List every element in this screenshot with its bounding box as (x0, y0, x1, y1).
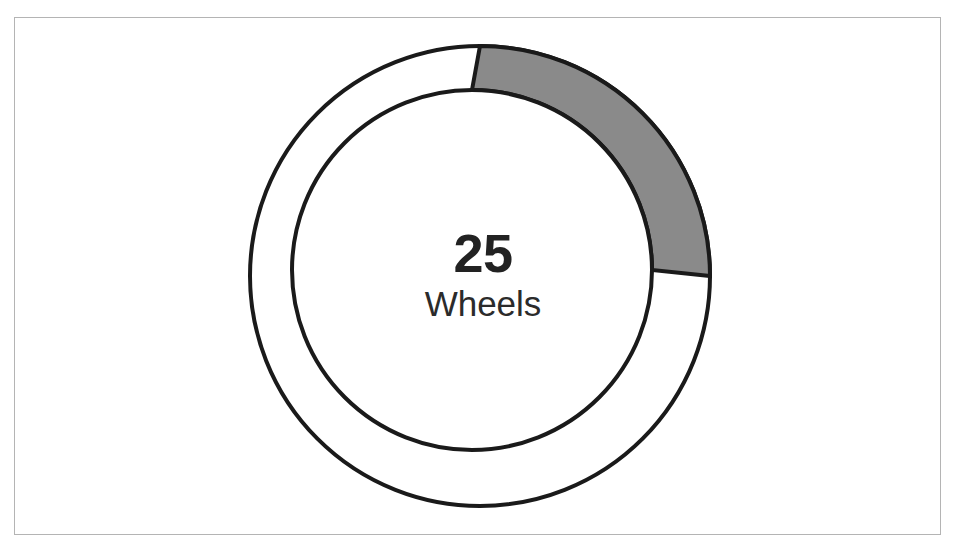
screenshot-canvas: 25 Wheels (0, 0, 955, 545)
donut-chart (0, 0, 955, 545)
donut-chart-svg (0, 0, 955, 545)
donut-inner-hole (292, 90, 652, 450)
